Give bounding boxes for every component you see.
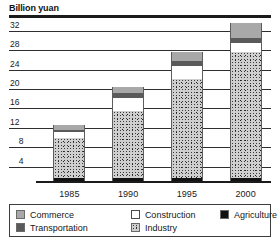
- bar-segment-commerce[interactable]: [172, 52, 202, 60]
- legend-row-1: Commerce Construction Agriculture: [10, 208, 270, 221]
- industry-swatch-icon: [131, 223, 140, 232]
- y-axis-tick-label: 12: [10, 118, 32, 127]
- y-axis-tick-label: 32: [10, 21, 32, 30]
- plot-frame: 48121620242832 1985199019952000: [9, 15, 271, 183]
- legend-label-transportation: Transportation: [30, 223, 88, 233]
- x-axis-tick-label: 2000: [216, 189, 276, 199]
- legend-label-commerce: Commerce: [30, 210, 74, 220]
- plot-area: 48121620242832: [36, 21, 271, 183]
- bar-segment-agriculture[interactable]: [54, 178, 84, 181]
- commerce-swatch-icon: [16, 210, 25, 219]
- x-axis-tick-label: 1995: [157, 189, 217, 199]
- bar-segment-construction[interactable]: [231, 43, 261, 53]
- legend-item-agriculture: Agriculture: [220, 210, 270, 220]
- y-axis-tick-label: 24: [10, 60, 32, 69]
- bar-segment-industry[interactable]: [172, 79, 202, 178]
- agriculture-swatch-icon: [220, 210, 229, 219]
- bar-segment-commerce[interactable]: [231, 23, 261, 38]
- bar-2000[interactable]: [230, 23, 262, 181]
- bar-segment-industry[interactable]: [231, 52, 261, 177]
- legend-label-construction: Construction: [145, 210, 196, 220]
- bar-1995[interactable]: [171, 52, 203, 181]
- construction-swatch-icon: [131, 210, 140, 219]
- transportation-swatch-icon: [16, 223, 25, 232]
- legend-label-industry: Industry: [145, 223, 177, 233]
- chart-title: Billion yuan: [9, 3, 59, 13]
- y-axis-tick-label: 8: [12, 137, 30, 146]
- chart-container: Billion yuan 48121620242832 198519901995…: [0, 0, 279, 244]
- x-axis-tick-label: 1985: [39, 189, 99, 199]
- legend-row-2: Transportation Industry: [10, 221, 270, 234]
- legend-label-agriculture: Agriculture: [234, 210, 277, 220]
- bar-segment-agriculture[interactable]: [172, 178, 202, 181]
- bar-1990[interactable]: [112, 87, 144, 181]
- x-axis-tick-label: 1990: [98, 189, 158, 199]
- legend-item-industry: Industry: [131, 223, 220, 233]
- y-axis-tick-label: 28: [10, 40, 32, 49]
- legend-item-transportation: Transportation: [10, 223, 131, 233]
- y-axis-tick-label: 4: [12, 157, 30, 166]
- bar-segment-construction[interactable]: [172, 66, 202, 80]
- legend-item-commerce: Commerce: [10, 210, 131, 220]
- bar-segment-industry[interactable]: [113, 111, 143, 178]
- bar-segment-agriculture[interactable]: [231, 178, 261, 181]
- y-axis-tick-label: 20: [10, 79, 32, 88]
- bar-1985[interactable]: [53, 125, 85, 181]
- bar-segment-agriculture[interactable]: [113, 178, 143, 181]
- y-axis-tick-label: 16: [10, 98, 32, 107]
- bar-segment-construction[interactable]: [113, 98, 143, 111]
- legend-item-construction: Construction: [131, 210, 220, 220]
- bar-segment-industry[interactable]: [54, 138, 84, 178]
- chart-legend: Commerce Construction Agriculture Transp…: [9, 204, 271, 237]
